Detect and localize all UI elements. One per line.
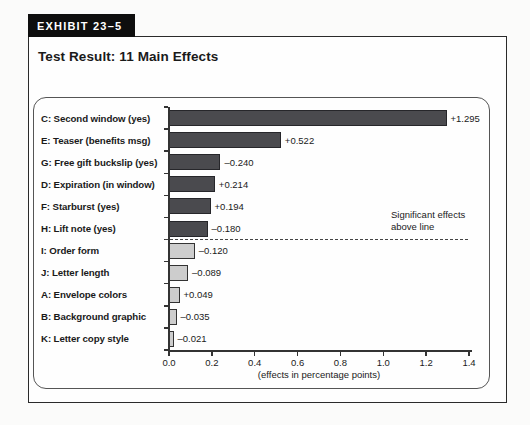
bar-track: –0.021 [169,331,485,347]
bar-value: +0.049 [184,289,213,300]
chart-container: C: Second window (yes)+1.295E: Teaser (b… [33,97,490,389]
bar-row: C: Second window (yes)+1.295 [34,107,485,129]
y-axis-tick [164,283,169,284]
bar-value: –0.021 [178,333,207,344]
bar-value: +0.194 [215,201,244,212]
x-axis-caption: (effects in percentage points) [169,369,469,380]
bar-label: A: Envelope colors [34,289,169,300]
bar-label: C: Second window (yes) [34,113,169,124]
x-axis-tick [425,352,426,356]
y-axis-tick [164,261,169,262]
y-axis-tick [164,195,169,196]
bar-label: D: Expiration (in window) [34,179,169,190]
bar [169,132,281,148]
bar-track: +0.522 [169,132,485,148]
bar [169,198,211,214]
x-axis-tick [383,352,384,356]
bar-value: –0.089 [192,267,221,278]
bar-value: +0.214 [219,179,248,190]
bar [169,309,177,325]
bar [169,243,195,259]
bar-row: D: Expiration (in window)+0.214 [34,173,485,195]
bar-label: G: Free gift buckslip (yes) [34,157,169,168]
significance-note-line1: Significant effects [391,209,465,221]
bar-row: E: Teaser (benefits msg)+0.522 [34,129,485,151]
bar-track: +0.214 [169,176,485,192]
bar-track: –0.035 [169,309,485,325]
bar-label: I: Order form [34,245,169,256]
y-axis-line [168,107,170,351]
x-tick-label: 0.2 [197,357,227,368]
bar-value: +0.522 [285,135,314,146]
bar-row: A: Envelope colors+0.049 [34,284,485,306]
y-axis-tick [164,106,169,107]
bar-row: I: Order form–0.120 [34,240,485,262]
bar-track: +0.049 [169,287,485,303]
y-axis-tick [164,173,169,174]
x-tick-label: 1.0 [368,357,398,368]
page-title: Test Result: 11 Main Effects [38,49,218,64]
y-axis-tick [164,217,169,218]
bar-row: G: Free gift buckslip (yes)–0.240 [34,151,485,173]
x-tick-label: 0.6 [283,357,313,368]
bar [169,176,215,192]
bar-label: K: Letter copy style [34,333,169,344]
x-axis-tick [254,352,255,356]
bar-value: +1.295 [451,113,480,124]
bar-label: E: Teaser (benefits msg) [34,135,169,146]
bar-track: –0.089 [169,265,485,281]
bar-track: –0.240 [169,154,485,170]
bar [169,265,188,281]
bar [169,154,220,170]
bar-track: –0.120 [169,243,485,259]
bar-value: –0.180 [212,223,241,234]
x-axis-tick [468,352,469,356]
bar-row: B: Background graphic–0.035 [34,306,485,328]
significance-divider-line [165,239,468,240]
bar-value: –0.120 [199,245,228,256]
bar-label: F: Starburst (yes) [34,201,169,212]
x-tick-label: 1.4 [454,357,484,368]
x-tick-label: 0.0 [154,357,184,368]
bar [169,110,447,126]
x-axis-tick [340,352,341,356]
significance-note: Significant effects above line [391,209,465,232]
bar-row: K: Letter copy style–0.021 [34,328,485,350]
x-tick-label: 0.8 [325,357,355,368]
bar-label: B: Background graphic [34,311,169,322]
x-axis-tick [168,352,169,356]
bar-track: +1.295 [169,110,485,126]
y-axis-tick [164,327,169,328]
x-axis-tick [297,352,298,356]
y-axis-tick [164,305,169,306]
exhibit-panel: Test Result: 11 Main Effects C: Second w… [28,36,507,403]
y-axis-tick [164,128,169,129]
bar-value: –0.240 [224,157,253,168]
x-tick-label: 1.2 [411,357,441,368]
bar [169,331,174,347]
bar [169,221,208,237]
y-axis-tick [164,150,169,151]
bar-row: J: Letter length–0.089 [34,262,485,284]
bar-value: –0.035 [181,311,210,322]
bar [169,287,180,303]
exhibit-tab: EXHIBIT 23–5 [28,14,135,37]
bar-label: H: Lift note (yes) [34,223,169,234]
x-tick-label: 0.4 [240,357,270,368]
x-axis-tick [211,352,212,356]
significance-note-line2: above line [391,221,465,233]
bar-label: J: Letter length [34,267,169,278]
